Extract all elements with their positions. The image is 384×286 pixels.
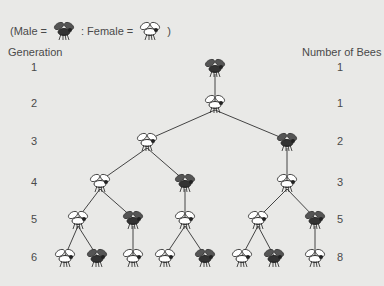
female-bee-icon xyxy=(54,248,76,267)
tree-edge xyxy=(215,110,287,140)
tree-nodes xyxy=(54,58,326,267)
female-bee-icon xyxy=(231,248,253,267)
male-bee-icon xyxy=(194,248,216,267)
female-bee-icon xyxy=(154,248,176,267)
male-bee-icon xyxy=(86,248,108,267)
tree-edge xyxy=(147,110,215,140)
family-tree xyxy=(0,0,384,286)
male-bee-icon xyxy=(263,248,285,267)
